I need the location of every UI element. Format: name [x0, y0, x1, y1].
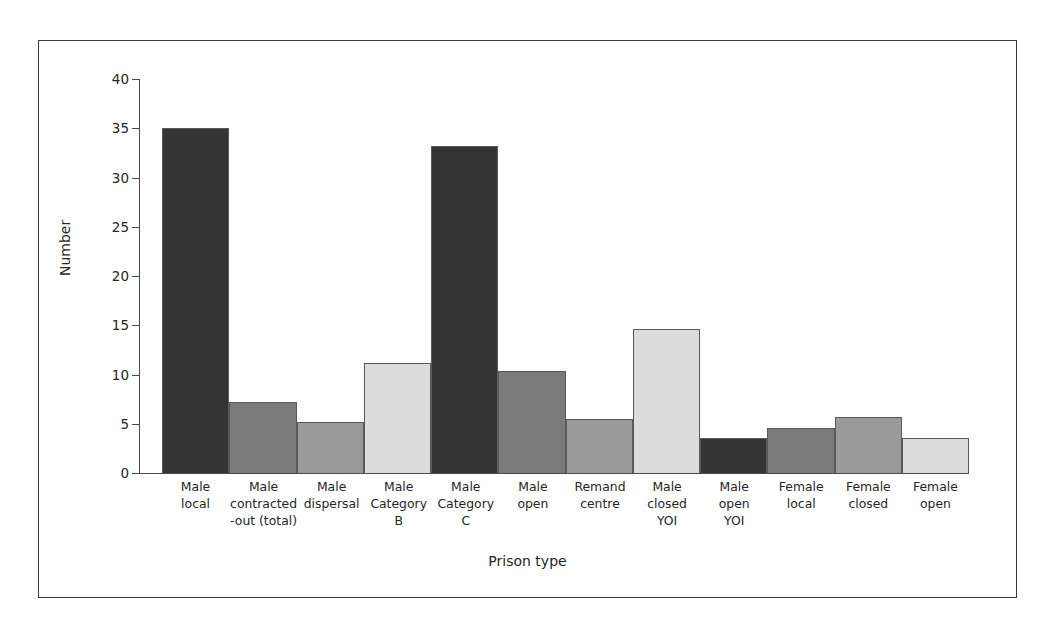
y-axis-tick	[132, 276, 139, 277]
bar-slot	[364, 79, 431, 473]
y-axis-tick-label: 30	[95, 170, 129, 186]
bar-slot	[297, 79, 364, 473]
y-axis-tick-label: 35	[95, 120, 129, 136]
x-axis-category-labels: MalelocalMalecontracted-out (total)Maled…	[162, 478, 969, 529]
y-axis-tick	[132, 375, 139, 376]
bar-slot	[902, 79, 969, 473]
x-axis-label-line: contracted	[230, 495, 297, 512]
x-axis-category-label: MaleCategoryB	[365, 478, 432, 529]
bar	[162, 128, 229, 473]
bar-slot	[162, 79, 229, 473]
x-axis-label-line: Female	[769, 478, 834, 495]
y-axis-tick-label: 40	[95, 71, 129, 87]
bar	[835, 417, 902, 473]
x-axis-label-line: Category	[433, 495, 498, 512]
bar-slot	[767, 79, 834, 473]
x-axis-label-line: open	[903, 495, 968, 512]
x-axis-label-line: open	[500, 495, 565, 512]
x-axis-label-line: YOI	[702, 512, 767, 529]
x-axis-label-line: local	[769, 495, 834, 512]
bar-slot	[633, 79, 700, 473]
bar-slot	[431, 79, 498, 473]
x-axis-label-line: Male	[230, 478, 297, 495]
x-axis-category-label: MaleopenYOI	[701, 478, 768, 529]
bar	[229, 402, 296, 473]
x-axis-label-line: Male	[635, 478, 700, 495]
y-axis-tick-label: 15	[95, 317, 129, 333]
x-axis-label-line: Male	[366, 478, 431, 495]
x-axis-label-line: Male	[702, 478, 767, 495]
chart-figure-frame: Number 0510152025303540 MalelocalMalecon…	[38, 40, 1017, 598]
x-axis-category-label: Malecontracted-out (total)	[229, 478, 298, 529]
y-axis-tick-label: 0	[95, 465, 129, 481]
y-axis-tick-label: 10	[95, 367, 129, 383]
y-axis-tick	[132, 424, 139, 425]
x-axis-label-line: Male	[433, 478, 498, 495]
x-axis-label-line: -out (total)	[230, 512, 297, 529]
x-axis-label-line: local	[163, 495, 228, 512]
y-axis-line	[139, 79, 140, 473]
bar	[566, 419, 633, 473]
x-axis-category-label: Femaleopen	[902, 478, 969, 529]
x-axis-label-line: dispersal	[299, 495, 364, 512]
x-axis-label-line: Female	[903, 478, 968, 495]
x-axis-label-line: closed	[635, 495, 700, 512]
y-axis-tick-label: 5	[95, 416, 129, 432]
x-axis-label-line: Female	[836, 478, 901, 495]
y-axis-title: Number	[57, 220, 73, 276]
bar-slot	[566, 79, 633, 473]
x-axis-category-label: Malelocal	[162, 478, 229, 529]
y-axis-tick	[132, 178, 139, 179]
x-axis-label-line: B	[366, 512, 431, 529]
bar	[498, 371, 565, 473]
x-axis-category-label: MaleCategoryC	[432, 478, 499, 529]
bar-slot	[835, 79, 902, 473]
bar-slot	[229, 79, 296, 473]
plot-area: 0510152025303540	[139, 79, 969, 473]
bar	[700, 438, 767, 473]
y-axis-tick	[132, 325, 139, 326]
y-axis-tick	[132, 79, 139, 80]
x-axis-category-label: Femaleclosed	[835, 478, 902, 529]
x-axis-category-label: MaleclosedYOI	[634, 478, 701, 529]
y-axis-tick	[132, 473, 139, 474]
x-axis-label-line: C	[433, 512, 498, 529]
x-axis-label-line: open	[702, 495, 767, 512]
x-axis-label-line: Male	[299, 478, 364, 495]
x-axis-label-line: Male	[163, 478, 228, 495]
y-axis-tick	[132, 128, 139, 129]
x-axis-title: Prison type	[39, 553, 1016, 569]
x-axis-label-line: Remand	[567, 478, 632, 495]
x-axis-label-line: closed	[836, 495, 901, 512]
x-axis-category-label: Maleopen	[499, 478, 566, 529]
x-axis-category-label: Maledispersal	[298, 478, 365, 529]
bar	[297, 422, 364, 473]
bar	[633, 329, 700, 473]
x-axis-category-label: Femalelocal	[768, 478, 835, 529]
bar-slot	[498, 79, 565, 473]
x-axis-label-line: Male	[500, 478, 565, 495]
x-axis-label-line: centre	[567, 495, 632, 512]
y-axis-tick-label: 25	[95, 219, 129, 235]
y-axis-tick	[132, 227, 139, 228]
x-axis-label-line: YOI	[635, 512, 700, 529]
bar	[431, 146, 498, 473]
bar-series	[162, 79, 969, 473]
x-axis-label-line: Category	[366, 495, 431, 512]
y-axis-tick-label: 20	[95, 268, 129, 284]
x-axis-category-label: Remandcentre	[566, 478, 633, 529]
bar	[902, 438, 969, 473]
x-axis-line	[139, 473, 969, 474]
bar-slot	[700, 79, 767, 473]
bar	[767, 428, 834, 473]
bar	[364, 363, 431, 473]
